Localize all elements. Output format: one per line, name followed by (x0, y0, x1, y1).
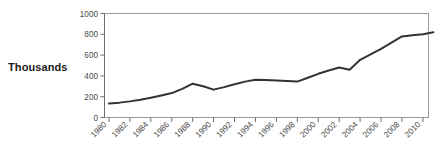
y-tick-label: 1000 (80, 10, 99, 19)
plot-area-border (105, 14, 429, 118)
x-tick-label: 2002 (319, 120, 339, 140)
x-axis-tick-labels: 1980 1982 1984 1986 1988 1990 1992 1994 … (89, 120, 422, 140)
x-tick-label: 1996 (257, 120, 277, 140)
x-tick-label: 1986 (152, 120, 172, 140)
chart-figure: Thousands 1000 800 600 400 200 0 (0, 0, 443, 157)
y-tick-label: 400 (84, 72, 98, 81)
x-tick-label: 1982 (110, 120, 130, 140)
x-tick-label: 2008 (382, 120, 402, 140)
x-tick-label: 1988 (173, 120, 193, 140)
line-chart-plot: 1000 800 600 400 200 0 (0, 0, 443, 157)
x-tick-label: 1998 (277, 120, 297, 140)
y-tick-label: 600 (84, 51, 98, 60)
y-tick-label: 200 (84, 93, 98, 102)
x-tick-label: 1990 (194, 120, 214, 140)
x-tick-label: 2000 (298, 120, 318, 140)
x-tick-label: 2006 (361, 120, 381, 140)
y-tick-label: 0 (93, 114, 98, 123)
x-axis-ticks (109, 118, 423, 123)
x-tick-label: 1994 (236, 120, 256, 140)
x-tick-label: 1984 (131, 120, 151, 140)
x-tick-label: 1992 (215, 120, 235, 140)
x-tick-label: 2004 (340, 120, 360, 140)
x-tick-label: 2010 (403, 120, 423, 140)
y-axis-ticks (101, 14, 105, 118)
x-tick-label: 1980 (89, 120, 109, 140)
y-axis-tick-labels: 1000 800 600 400 200 0 (80, 10, 99, 123)
y-tick-label: 800 (84, 30, 98, 39)
